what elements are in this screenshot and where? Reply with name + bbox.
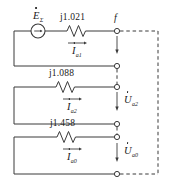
current-arrow-head-3 xyxy=(79,148,82,151)
impedance-label-2: j1.088 xyxy=(49,69,74,79)
node-label-f: f xyxy=(114,13,117,23)
current-label-2: Ia2 xyxy=(67,102,77,113)
current-arrow-head-2 xyxy=(79,98,82,101)
positive-sequence-branch xyxy=(14,24,119,66)
impedance-zigzag-1 xyxy=(67,26,86,37)
current-arrow-head-1 xyxy=(84,42,87,45)
impedance-label-3: j1.458 xyxy=(50,119,75,129)
terminal-zero-top xyxy=(114,134,119,139)
circuit-svg xyxy=(0,0,169,186)
source-arrow-head xyxy=(40,30,42,33)
impedance-zigzag-2 xyxy=(56,82,75,93)
terminal-negative-bottom xyxy=(114,121,119,126)
terminal-zero-bottom xyxy=(114,171,119,176)
flow-arrow-head-1 xyxy=(115,50,118,55)
voltage-label-2: Ua2 xyxy=(124,95,138,106)
impedance-zigzag-3 xyxy=(57,132,76,143)
voltage-arrow-head-3 xyxy=(115,158,118,163)
impedance-label-1: j1.021 xyxy=(60,13,85,23)
voltage-label-3: Ua0 xyxy=(124,146,138,157)
emf-label: EΣ xyxy=(33,11,43,22)
circuit-diagram: EΣ j1.021 j1.088 j1.458 f Ia1 Ia2 Ia0 Ua… xyxy=(0,0,169,186)
current-label-3: Ia0 xyxy=(67,152,77,163)
terminal-negative-top xyxy=(114,84,119,89)
current-label-1: Ia1 xyxy=(72,46,82,57)
terminal-f xyxy=(114,28,119,33)
voltage-arrow-head-2 xyxy=(115,107,118,112)
terminal-positive-bottom xyxy=(114,63,119,68)
